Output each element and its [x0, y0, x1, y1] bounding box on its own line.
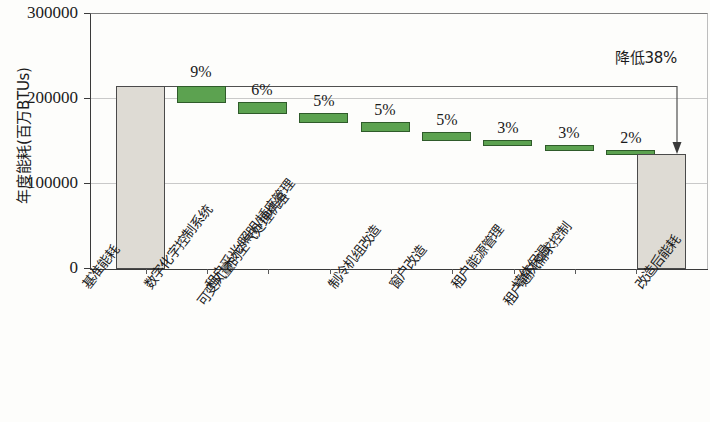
gridline-100000	[91, 183, 707, 184]
x-tick-mark	[268, 269, 269, 274]
x-tick-mark	[575, 269, 576, 274]
waterfall-chart: 年度能耗(百万BTUs) 300000 200000 100000 0 9% 6…	[0, 0, 710, 422]
y-tick-label: 300000	[0, 3, 78, 23]
bar-step-3	[299, 113, 348, 123]
data-label-step-6: 3%	[497, 119, 518, 137]
bar-step-1	[177, 86, 226, 103]
reduction-annotation: 降低38%	[615, 46, 677, 67]
bar-step-4	[361, 122, 410, 132]
bar-step-2	[238, 102, 287, 114]
data-label-step-7: 3%	[558, 124, 579, 142]
data-label-step-5: 5%	[436, 111, 457, 129]
data-label-step-3: 5%	[313, 92, 334, 110]
y-tick-label: 100000	[0, 173, 78, 193]
data-label-step-1: 9%	[190, 63, 211, 81]
y-axis-title: 年度能耗(百万BTUs)	[12, 26, 33, 246]
y-tick-label: 200000	[0, 88, 78, 108]
data-label-step-4: 5%	[374, 101, 395, 119]
bar-step-7	[545, 145, 594, 151]
annotation-leader-line	[164, 86, 677, 87]
data-label-step-8: 2%	[620, 129, 641, 147]
bar-step-6	[483, 140, 532, 146]
y-tick-label: 0	[0, 258, 78, 278]
bar-baseline	[116, 86, 165, 269]
bar-step-5	[422, 132, 471, 141]
data-label-step-2: 6%	[251, 81, 272, 99]
